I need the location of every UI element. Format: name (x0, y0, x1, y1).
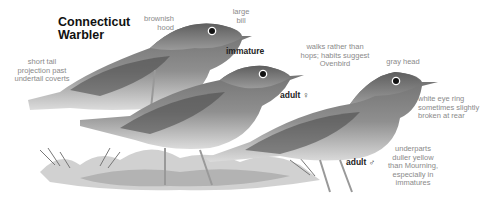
annotation-eye-ring: white eye ring sometimes slightly broken… (418, 95, 490, 121)
title-line-2: Warbler (58, 29, 130, 42)
annotation-large-bill: large bill (226, 8, 256, 25)
label-adult-female: adult ♀ (280, 90, 309, 100)
annotation-underparts: underparts duller yellow than Mourning, … (385, 145, 441, 188)
species-title: Connecticut Warbler (58, 16, 130, 42)
annotation-short-tail: short tail projection past undertail cov… (10, 58, 74, 84)
annotation-brownish-hood: brownish hood (128, 15, 174, 32)
label-adult-male: adult ♂ (346, 157, 375, 167)
annotation-gray-head: gray head (378, 58, 428, 67)
label-immature: immature (226, 46, 264, 56)
field-guide-plate: Connecticut Warbler brownish hood large … (0, 0, 490, 218)
annotation-walks: walks rather than hops; habits suggest O… (300, 43, 370, 69)
